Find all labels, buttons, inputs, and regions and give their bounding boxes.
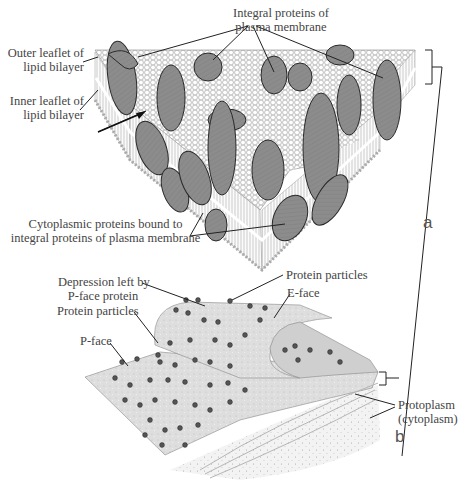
label-depression-line1: Depression left by xyxy=(58,275,148,289)
label-cytoplasmic-line2: integral proteins of plasma membrane xyxy=(8,231,203,245)
label-cytoplasmic-line1: Cytoplasmic proteins bound to xyxy=(8,217,203,231)
label-protoplasm: Protoplasm (cytoplasm) xyxy=(398,398,458,426)
label-inner-leaflet-line1: Inner leaflet of xyxy=(4,94,84,108)
label-depression: Depression left by P-face protein xyxy=(58,275,148,303)
label-protein-particles-left: Protein particles xyxy=(57,304,139,318)
label-integral-proteins: Integral proteins of plasma membrane xyxy=(233,6,329,34)
label-cytoplasmic-proteins: Cytoplasmic proteins bound to integral p… xyxy=(8,217,203,245)
label-inner-leaflet-line2: lipid bilayer xyxy=(4,108,84,122)
freeze-fracture-illustration xyxy=(85,298,380,480)
panel-label-b: b xyxy=(395,427,404,447)
label-protoplasm-line1: Protoplasm xyxy=(398,398,458,412)
label-protoplasm-line2: (cytoplasm) xyxy=(398,412,458,426)
label-inner-leaflet: Inner leaflet of lipid bilayer xyxy=(4,94,84,122)
label-p-face: P-face xyxy=(80,334,112,348)
label-outer-leaflet: Outer leaflet of lipid bilayer xyxy=(4,46,84,74)
label-protein-particles-top: Protein particles xyxy=(286,268,368,282)
label-depression-line2: P-face protein xyxy=(58,289,148,303)
label-e-face: E-face xyxy=(287,286,320,300)
label-outer-leaflet-line2: lipid bilayer xyxy=(4,60,84,74)
label-integral-proteins-line1: Integral proteins of xyxy=(233,6,329,20)
label-outer-leaflet-line1: Outer leaflet of xyxy=(4,46,84,60)
panel-label-a: a xyxy=(423,213,432,233)
label-integral-proteins-line2: plasma membrane xyxy=(233,20,329,34)
